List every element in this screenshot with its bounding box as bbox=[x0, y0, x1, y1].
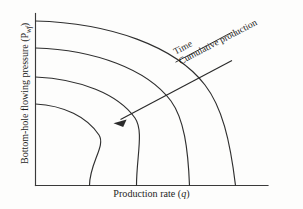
x-axis-label: Production rate (q) bbox=[35, 188, 268, 199]
x-axis-label-prefix: Production rate ( bbox=[113, 188, 181, 199]
direction-arrow-head bbox=[114, 120, 127, 128]
ipr-curve-3 bbox=[36, 77, 140, 186]
x-axis-label-suffix: ) bbox=[186, 188, 189, 199]
y-axis-label-prefix: Bottom-hole flowing pressure (P bbox=[19, 33, 30, 164]
ipr-curve-2 bbox=[36, 48, 190, 186]
y-axis-label-subscript: wf bbox=[25, 26, 33, 33]
y-axis-label-suffix: ) bbox=[19, 23, 30, 26]
ipr-curve-4 bbox=[36, 104, 101, 186]
y-axis-label: Bottom-hole flowing pressure (Pwf) bbox=[19, 9, 30, 179]
ipr-decline-figure: Bottom-hole flowing pressure (Pwf) Produ… bbox=[0, 0, 303, 209]
plot-canvas bbox=[0, 0, 303, 209]
